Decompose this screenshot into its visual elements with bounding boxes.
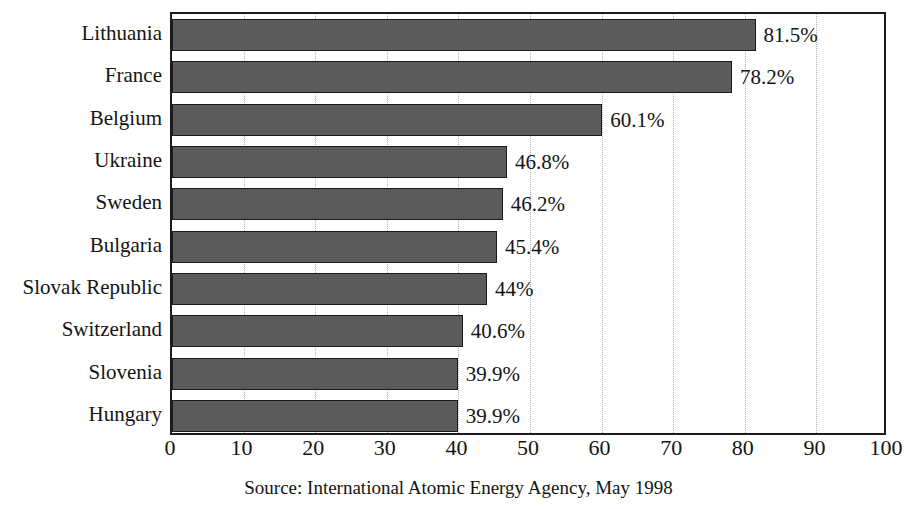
bar-row: 40.6% [172,315,884,347]
bar-row: 78.2% [172,61,884,93]
x-axis: 0102030405060708090100 [170,437,886,471]
x-axis-tick-label: 90 [803,437,825,459]
bar-value-label: 40.6% [471,321,525,342]
category-label: Slovenia [89,362,163,383]
bar-value-label: 39.9% [466,405,520,426]
bar-value-label: 39.9% [466,363,520,384]
bar [172,400,458,432]
x-axis-tick-label: 30 [374,437,396,459]
bar-series: 81.5%78.2%60.1%46.8%46.2%45.4%44%40.6%39… [172,14,884,433]
y-axis-category-labels: LithuaniaFranceBelgiumUkraineSwedenBulga… [0,12,162,435]
category-label: Slovak Republic [23,277,162,298]
category-label: Belgium [90,108,162,129]
bar [172,315,463,347]
bar-row: 45.4% [172,231,884,263]
category-label: Hungary [89,404,162,425]
bar-value-label: 46.2% [511,194,565,215]
bar [172,231,497,263]
source-note: Source: International Atomic Energy Agen… [0,478,917,497]
category-label: Switzerland [62,319,162,340]
bar [172,273,487,305]
bar [172,104,602,136]
category-label: Sweden [96,192,163,213]
bar-value-label: 78.2% [740,67,794,88]
x-axis-tick-label: 50 [517,437,539,459]
x-axis-tick-label: 60 [589,437,611,459]
bar-row: 46.8% [172,146,884,178]
bar [172,188,503,220]
bar-row: 60.1% [172,104,884,136]
bar-value-label: 46.8% [515,152,569,173]
bar [172,19,756,51]
bar-value-label: 81.5% [764,25,818,46]
category-label: Bulgaria [90,235,162,256]
bar-value-label: 45.4% [505,236,559,257]
bar-value-label: 60.1% [610,109,664,130]
bar [172,146,507,178]
x-axis-tick-label: 0 [165,437,176,459]
x-axis-tick-label: 10 [231,437,253,459]
category-label: Lithuania [82,23,162,44]
bar-row: 44% [172,273,884,305]
bar-row: 46.2% [172,188,884,220]
bar-row: 39.9% [172,400,884,432]
bar-value-label: 44% [495,278,534,299]
category-label: Ukraine [94,150,162,171]
bar-row: 81.5% [172,19,884,51]
x-axis-tick-label: 20 [302,437,324,459]
bar [172,358,458,390]
chart-page: LithuaniaFranceBelgiumUkraineSwedenBulga… [0,0,917,509]
x-axis-tick-label: 70 [660,437,682,459]
bar-row: 39.9% [172,358,884,390]
bar [172,61,732,93]
plot-area: 81.5%78.2%60.1%46.8%46.2%45.4%44%40.6%39… [170,12,886,435]
x-axis-tick-label: 80 [732,437,754,459]
x-axis-tick-label: 40 [445,437,467,459]
x-axis-tick-label: 100 [870,437,903,459]
category-label: France [105,65,162,86]
